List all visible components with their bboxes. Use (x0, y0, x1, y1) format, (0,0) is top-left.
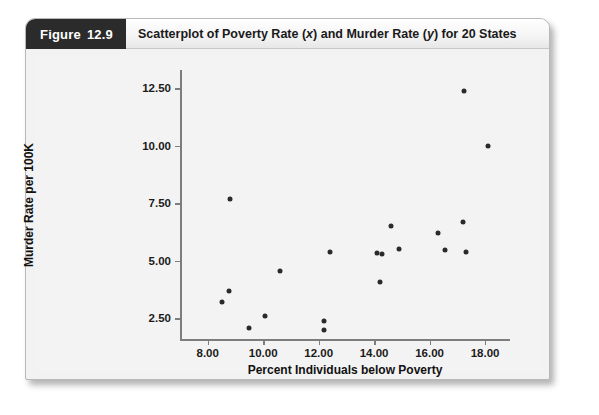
data-point (374, 250, 379, 255)
data-point (226, 288, 231, 293)
x-tick (485, 340, 486, 345)
figure-tag-number: 12.9 (87, 27, 113, 42)
figure-header: Figure 12.9 Scatterplot of Poverty Rate … (26, 19, 549, 49)
y-tick-label: 10.00 (125, 140, 171, 152)
caption-segment-2: ) and Murder Rate ( (313, 27, 427, 41)
data-point (397, 247, 402, 252)
data-point (227, 196, 232, 201)
caption-segment-3: ) for 20 States (434, 27, 517, 41)
data-point (435, 231, 440, 236)
caption-variable-x: x (306, 27, 313, 41)
caption-segment-1: Scatterplot of Poverty Rate ( (138, 27, 306, 41)
data-point (219, 300, 224, 305)
data-point (377, 279, 382, 284)
x-axis-line (180, 339, 510, 341)
x-tick-label: 12.00 (304, 347, 333, 359)
data-point (442, 248, 447, 253)
y-tick (175, 318, 180, 319)
x-tick-label: 18.00 (471, 347, 500, 359)
figure-tag-word: Figure (40, 27, 81, 42)
y-tick-label: 7.50 (125, 197, 171, 209)
x-tick (319, 340, 320, 345)
y-tick-label: 5.00 (125, 255, 171, 267)
plot-panel: 2.505.007.5010.0012.50 8.0010.0012.0014.… (35, 55, 542, 372)
y-tick-label: 2.50 (125, 312, 171, 324)
data-point (388, 224, 393, 229)
y-tick (175, 88, 180, 89)
y-axis-title: Murder Rate per 100K (22, 143, 36, 267)
y-tick (175, 146, 180, 147)
x-tick-label: 10.00 (249, 347, 278, 359)
figure-number-tag: Figure 12.9 (26, 19, 126, 49)
data-point (262, 314, 267, 319)
figure-caption: Scatterplot of Poverty Rate (x) and Murd… (138, 19, 517, 49)
data-point (322, 318, 327, 323)
scatter-plot: 2.505.007.5010.0012.50 8.0010.0012.0014.… (35, 55, 542, 372)
data-point (327, 249, 332, 254)
x-tick (263, 340, 264, 345)
x-tick-label: 14.00 (360, 347, 389, 359)
data-point (460, 219, 465, 224)
x-tick-label: 8.00 (197, 347, 219, 359)
x-tick (208, 340, 209, 345)
data-point (322, 327, 327, 332)
y-tick (175, 203, 180, 204)
data-point (247, 325, 252, 330)
x-tick (374, 340, 375, 345)
x-tick (430, 340, 431, 345)
x-axis-title: Percent Individuals below Poverty (248, 363, 443, 377)
y-tick-label: 12.50 (125, 82, 171, 94)
data-point (485, 143, 490, 148)
data-point (380, 251, 385, 256)
y-axis-line (180, 70, 182, 340)
caption-variable-y: y (427, 27, 434, 41)
x-tick-label: 16.00 (415, 347, 444, 359)
y-tick (175, 261, 180, 262)
data-point (462, 88, 467, 93)
data-point (277, 269, 282, 274)
figure-card: Figure 12.9 Scatterplot of Poverty Rate … (25, 18, 550, 380)
data-point (463, 249, 468, 254)
